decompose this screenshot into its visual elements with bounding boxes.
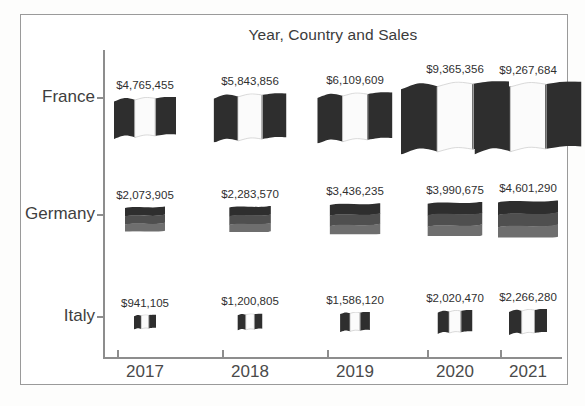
value-label-france-2019: $6,109,609 xyxy=(326,74,384,86)
x-axis-line xyxy=(103,357,562,359)
value-label-france-2017: $4,765,455 xyxy=(116,79,174,91)
germany-flag-icon-2019[interactable] xyxy=(330,203,381,234)
value-label-france-2020: $9,365,356 xyxy=(426,63,484,75)
x-axis-tick-2021 xyxy=(500,350,502,358)
y-axis-label-italy: Italy xyxy=(64,306,95,326)
x-axis-label-2018: 2018 xyxy=(231,362,269,382)
value-label-italy-2018: $1,200,805 xyxy=(221,295,279,307)
italy-flag-icon-2020[interactable] xyxy=(437,310,472,334)
y-axis-label-france: France xyxy=(42,87,95,107)
germany-flag-icon-2017[interactable] xyxy=(125,207,165,232)
x-axis-label-2020: 2020 xyxy=(436,362,474,382)
value-label-france-2018: $5,843,856 xyxy=(221,75,279,87)
value-label-germany-2021: $4,601,290 xyxy=(499,182,557,194)
y-axis-label-germany: Germany xyxy=(25,204,95,224)
value-label-germany-2017: $2,073,905 xyxy=(116,189,174,201)
value-label-france-2021: $9,267,684 xyxy=(499,64,557,76)
x-axis-label-2021: 2021 xyxy=(509,362,547,382)
y-axis-tick-france xyxy=(97,97,104,99)
france-flag-icon-2017[interactable] xyxy=(114,97,176,139)
x-axis-tick-2020 xyxy=(427,350,429,358)
chart-container: Year, Country and Sales FranceGermanyIta… xyxy=(0,0,585,406)
x-axis-label-2017: 2017 xyxy=(126,362,164,382)
y-axis-tick-germany xyxy=(97,214,104,216)
france-flag-icon-2019[interactable] xyxy=(317,92,392,143)
italy-flag-icon-2017[interactable] xyxy=(134,315,156,330)
italy-flag-icon-2021[interactable] xyxy=(509,309,547,335)
italy-flag-icon-2018[interactable] xyxy=(237,313,262,330)
x-axis-tick-2017 xyxy=(117,350,119,358)
value-label-germany-2020: $3,990,675 xyxy=(426,184,484,196)
germany-flag-icon-2020[interactable] xyxy=(427,202,482,236)
y-axis-tick-italy xyxy=(97,316,104,318)
value-label-germany-2018: $2,283,570 xyxy=(221,188,279,200)
value-label-italy-2021: $2,266,280 xyxy=(499,291,557,303)
value-label-italy-2020: $2,020,470 xyxy=(426,292,484,304)
value-label-germany-2019: $3,436,235 xyxy=(326,185,384,197)
x-axis-label-2019: 2019 xyxy=(336,362,374,382)
chart-title: Year, Country and Sales xyxy=(103,26,563,44)
france-flag-icon-2018[interactable] xyxy=(214,93,287,142)
germany-flag-icon-2021[interactable] xyxy=(498,200,558,237)
x-axis-tick-2018 xyxy=(222,350,224,358)
x-axis-tick-2019 xyxy=(327,350,329,358)
italy-flag-icon-2019[interactable] xyxy=(340,312,370,332)
france-flag-icon-2021[interactable] xyxy=(474,82,581,155)
value-label-italy-2017: $941,105 xyxy=(121,297,169,309)
value-label-italy-2019: $1,586,120 xyxy=(326,294,384,306)
germany-flag-icon-2018[interactable] xyxy=(229,206,271,232)
